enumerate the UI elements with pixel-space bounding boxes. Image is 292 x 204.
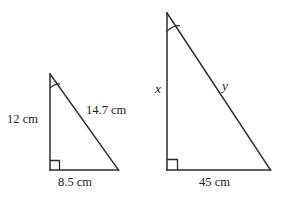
left-triangle-hypotenuse xyxy=(50,74,119,170)
left-triangle-base-label: 8.5 cm xyxy=(58,176,92,189)
right-triangle-hypotenuse-label: y xyxy=(222,79,228,93)
right-triangle-base-label: 45 cm xyxy=(199,176,230,189)
left-triangle-hypotenuse-label: 14.7 cm xyxy=(86,104,126,117)
left-triangle-vertical-leg-label: 12 cm xyxy=(7,113,38,126)
right-triangle xyxy=(167,13,271,170)
right-triangle-hypotenuse xyxy=(167,13,271,170)
similar-triangles-diagram xyxy=(0,0,292,204)
right-triangle-vertical-leg-label: x xyxy=(155,82,161,96)
left-triangle xyxy=(50,74,119,170)
right-triangle-right-angle-square xyxy=(167,160,178,171)
left-triangle-right-angle-square xyxy=(50,161,60,171)
